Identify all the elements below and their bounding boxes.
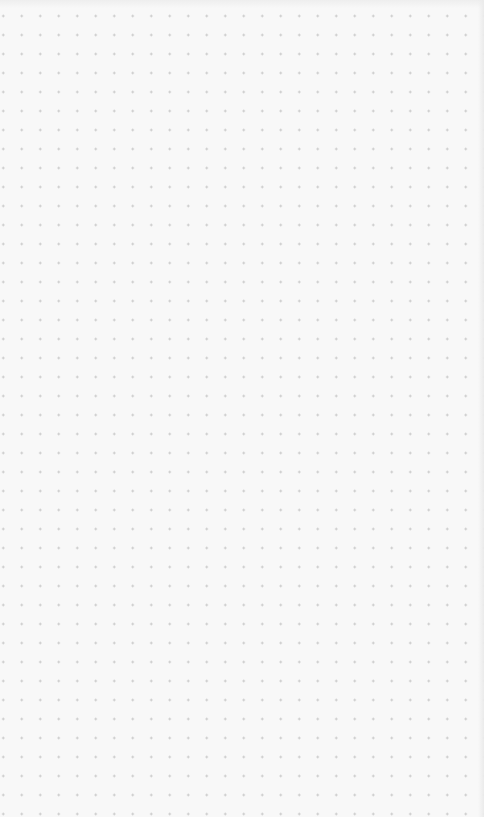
scrollbar-track[interactable] [478, 0, 484, 817]
dot-grid-canvas[interactable] [0, 0, 484, 817]
